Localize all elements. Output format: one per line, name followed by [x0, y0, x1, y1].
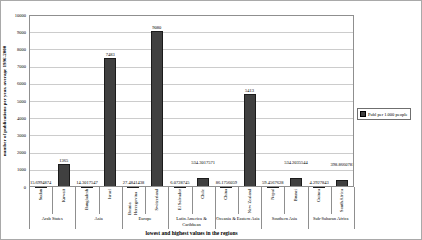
category-label: Israel	[107, 189, 113, 199]
group-separator	[354, 187, 355, 229]
category-label: South Africa	[340, 189, 346, 212]
gridline	[29, 67, 354, 68]
category-separator	[238, 187, 239, 214]
y-tick-label: 10000	[1, 13, 26, 18]
category-separator	[52, 187, 53, 214]
bar	[81, 186, 93, 188]
group-separator	[215, 187, 216, 229]
region-label: Sub-Saharan Africa	[308, 216, 354, 222]
y-tick-label: 5000	[1, 99, 26, 104]
region-label: Asia	[75, 216, 121, 222]
y-tick-label: 2000	[1, 150, 26, 155]
gridline	[29, 49, 354, 50]
bar-value-label: 14.3017547	[70, 180, 104, 185]
legend-swatch-icon	[360, 111, 366, 117]
bar	[104, 58, 116, 187]
bar	[197, 178, 209, 187]
category-separator	[284, 187, 285, 214]
region-label: Europe	[122, 216, 168, 222]
gridline	[29, 15, 354, 16]
category-label: New Zealand	[247, 189, 253, 213]
group-separator	[261, 187, 262, 229]
category-label: Brunei	[293, 189, 299, 201]
bar-value-label: 398.8660781	[325, 162, 359, 167]
bar-value-label: 86.1756059	[209, 180, 243, 185]
bar-value-label: 1365	[47, 158, 81, 163]
gridline	[29, 84, 354, 85]
category-label: Switzerland	[154, 189, 160, 211]
gridline	[29, 32, 354, 33]
category-separator	[192, 187, 193, 214]
bar	[336, 180, 348, 187]
y-tick-label: 7000	[1, 64, 26, 69]
gridline	[29, 118, 354, 119]
y-tick-label: 6000	[1, 81, 26, 86]
group-separator	[122, 187, 123, 229]
category-label: Chile	[200, 189, 206, 199]
bar	[313, 186, 325, 188]
y-tick-label: 0	[1, 185, 26, 190]
group-separator	[308, 187, 309, 229]
category-label: Kuwait	[61, 189, 67, 202]
y-tick-label: 1000	[1, 167, 26, 172]
y-tick-label: 8000	[1, 47, 26, 52]
bar-value-label: 7483	[93, 52, 127, 57]
bar	[267, 186, 279, 188]
category-label: Bangladesh	[84, 189, 90, 210]
bar	[35, 186, 47, 188]
category-label: Guinea	[316, 189, 322, 202]
bar-value-label: 534.2035544	[279, 160, 313, 165]
group-separator	[75, 187, 76, 229]
bar	[127, 186, 139, 188]
region-label: Arab States	[29, 216, 75, 222]
bar-value-label: 9080	[140, 25, 174, 30]
legend-label: Publ per 1.000 people	[368, 112, 408, 117]
bar-value-label: 6.0728745	[163, 180, 197, 185]
bar	[220, 186, 232, 188]
y-tick-label: 4000	[1, 116, 26, 121]
bar-value-label: 5413	[233, 88, 267, 93]
category-label: China	[224, 189, 230, 200]
bar	[244, 94, 256, 187]
category-separator	[99, 187, 100, 214]
x-axis-title: lowest and highest values in the regions	[29, 230, 354, 236]
legend: Publ per 1.000 people	[357, 108, 411, 120]
category-separator	[145, 187, 146, 214]
category-separator	[331, 187, 332, 214]
category-label: Bosnia Herzegovina	[128, 189, 139, 215]
category-label: El Salvador	[177, 189, 183, 210]
region-label: Latin America & Caribbean	[168, 216, 214, 227]
y-tick-label: 3000	[1, 133, 26, 138]
gridline	[29, 153, 354, 154]
group-separator	[29, 187, 30, 229]
bar-value-label: 4.2927843	[302, 180, 336, 185]
bar-value-label: 27.4841438	[116, 180, 150, 185]
bar	[58, 164, 70, 187]
bar	[290, 178, 302, 187]
bar	[174, 186, 186, 188]
category-label: Sudan	[38, 189, 44, 200]
gridline	[29, 170, 354, 171]
y-tick-label: 9000	[1, 30, 26, 35]
bar	[151, 31, 163, 187]
gridline	[29, 101, 354, 102]
bar-chart: number of publications per year, average…	[0, 0, 422, 240]
bar-value-label: 15.6994874	[24, 180, 58, 185]
category-label: Nepal	[270, 189, 276, 200]
region-label: Oceania & Eastern Asia	[215, 216, 261, 222]
region-label: Southern Asia	[261, 216, 307, 222]
gridline	[29, 135, 354, 136]
bar-value-label: 534.3017571	[186, 160, 220, 165]
bar-value-label: 59.4567628	[256, 180, 290, 185]
